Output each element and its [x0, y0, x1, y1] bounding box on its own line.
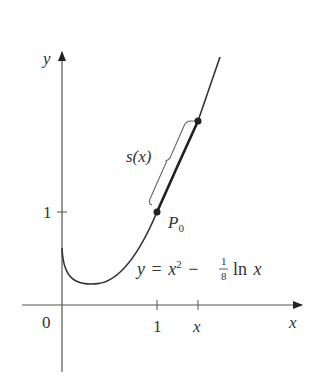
fraction-denominator: 8: [221, 270, 227, 282]
point-p0: [154, 209, 161, 216]
y-tick-label-1: 1: [43, 203, 52, 222]
arc-segment: [157, 121, 198, 212]
arc-length-label: s(x): [126, 147, 152, 166]
arc-length-brace: [149, 121, 198, 205]
x-tick-label-1: 1: [153, 317, 162, 336]
x-axis-label: x: [288, 313, 297, 332]
y-axis-label: y: [41, 49, 51, 68]
x-tick-label-x: x: [192, 317, 201, 336]
equation-label: y = x2 − 1 8 ln x: [135, 252, 262, 282]
svg-text:y = x2 −: y = x2 −: [135, 252, 198, 279]
fraction-numerator: 1: [221, 255, 227, 267]
origin-label: 0: [42, 313, 51, 332]
graph-canvas: y x 0 1 x 1 s(x) P0 y = x2 − 1 8 ln x: [0, 0, 327, 382]
point-p0-label: P0: [167, 213, 184, 234]
point-upper: [195, 118, 202, 125]
svg-text:ln x: ln x: [233, 259, 262, 279]
